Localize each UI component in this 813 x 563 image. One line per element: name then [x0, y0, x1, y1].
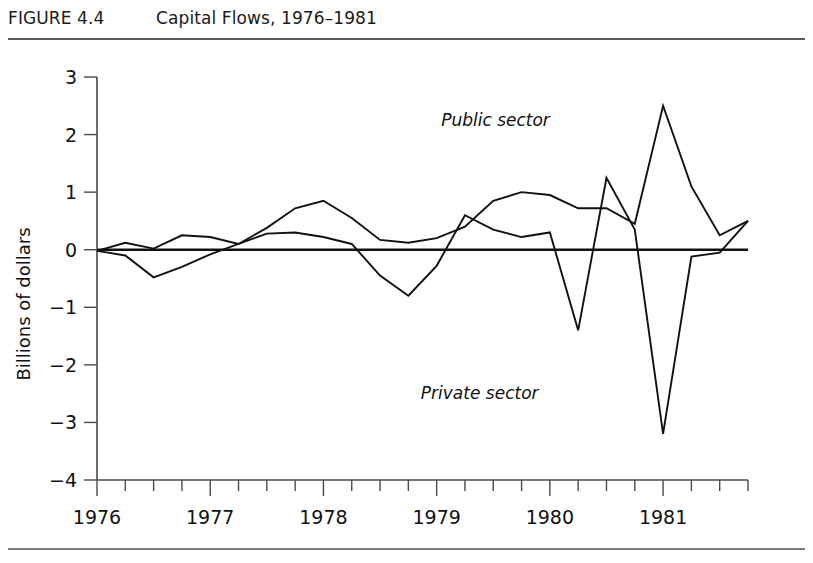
y-tick-label: 2 [65, 124, 77, 146]
annotation-public-sector: Public sector [441, 110, 551, 130]
y-tick-label: −2 [49, 354, 77, 376]
y-tick-label: −1 [49, 296, 77, 318]
x-tick-label: 1977 [186, 506, 234, 528]
capital-flows-line-chart: 3210−1−2−3−4 197619771978197919801981 Bi… [0, 44, 813, 544]
x-axis-ticks [97, 480, 748, 496]
annotation-private-sector: Private sector [421, 383, 540, 403]
y-tick-label: 3 [65, 66, 77, 88]
x-tick-label: 1980 [526, 506, 574, 528]
series-line-public-sector [97, 106, 748, 251]
y-axis-tick-labels: 3210−1−2−3−4 [49, 66, 77, 491]
x-tick-label: 1978 [299, 506, 347, 528]
x-tick-label: 1981 [639, 506, 687, 528]
header-divider-top [8, 38, 805, 40]
y-axis-title: Billions of dollars [13, 227, 34, 380]
footer-divider [8, 548, 805, 550]
x-tick-label: 1976 [73, 506, 121, 528]
figure-number: FIGURE 4.4 [8, 8, 104, 28]
figure-title: Capital Flows, 1976–1981 [156, 8, 377, 28]
y-axis-ticks [84, 77, 97, 480]
chart-plot-area: 3210−1−2−3−4 197619771978197919801981 Bi… [0, 44, 813, 544]
x-tick-label: 1979 [412, 506, 460, 528]
y-tick-label: −4 [49, 469, 77, 491]
x-axis-tick-labels: 197619771978197919801981 [73, 506, 687, 528]
figure-container: FIGURE 4.4 Capital Flows, 1976–1981 3210… [0, 0, 813, 563]
y-tick-label: −3 [49, 411, 77, 433]
y-tick-label: 0 [65, 239, 77, 261]
y-tick-label: 1 [65, 181, 77, 203]
figure-header: FIGURE 4.4 Capital Flows, 1976–1981 [8, 6, 805, 40]
